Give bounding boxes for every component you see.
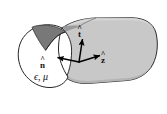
material-properties-label: ϵ, μ bbox=[34, 72, 48, 82]
normal-vector-label: ^ n bbox=[40, 61, 45, 70]
waveguide-diagram-svg bbox=[0, 0, 167, 114]
axial-vector-label: ^ z bbox=[101, 56, 105, 65]
vector-origin-point bbox=[78, 61, 80, 63]
tangent-vector-hat: ^ bbox=[77, 25, 82, 33]
tangent-vector-label: ^ t bbox=[78, 30, 81, 39]
normal-vector-hat: ^ bbox=[40, 56, 45, 64]
axial-vector-hat: ^ bbox=[101, 51, 106, 59]
waveguide-figure: ^ n ^ t ^ z ϵ, μ bbox=[0, 0, 167, 114]
